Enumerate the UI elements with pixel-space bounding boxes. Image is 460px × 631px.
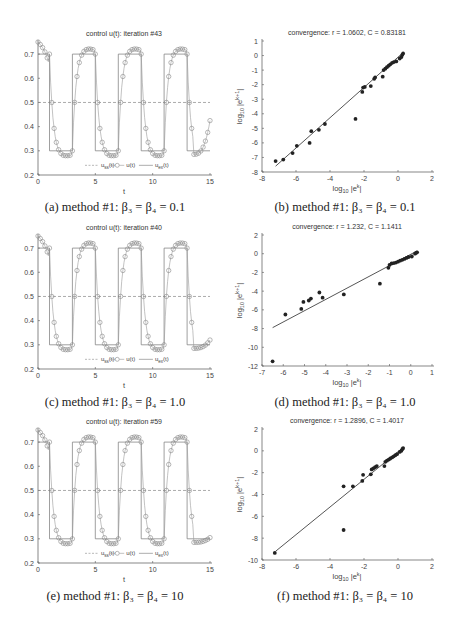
y-tick-label: 2 <box>254 232 258 239</box>
y-tick-label: -6 <box>252 139 258 146</box>
y-tick-label: 0.5 <box>24 293 34 300</box>
scatter-points <box>271 250 419 363</box>
chart-title: convergence: r = 1.2896, C = 1.4017 <box>290 417 404 425</box>
y-tick-label: -6 <box>252 513 258 520</box>
y-tick-label: -4 <box>252 491 258 498</box>
y-tick-label: -2 <box>252 81 258 88</box>
y-tick-label: 0.3 <box>24 341 34 348</box>
series-u <box>38 42 210 156</box>
chart-title: convergence: r = 1.0602, C = 0.83181 <box>288 29 406 37</box>
y-tick-label: -10 <box>248 344 258 351</box>
chart-b: -8-6-4-202-8-7-6-5-4-3-2-101convergence:… <box>230 0 460 195</box>
y-tick-label: -8 <box>252 325 258 332</box>
svg-text:uex(t): uex(t) <box>155 356 169 364</box>
y-tick-label: -5 <box>252 125 258 132</box>
x-tick-label: 10 <box>149 178 157 185</box>
x-tick-label: -2 <box>361 563 367 570</box>
x-tick-label: -2 <box>365 369 371 376</box>
x-tick-label: -1 <box>386 369 392 376</box>
axis-label: log10 |ek| <box>332 183 361 194</box>
x-tick-label: 0 <box>409 369 413 376</box>
y-tick-label: -8 <box>252 535 258 542</box>
u-markers <box>36 234 212 352</box>
x-tick-label: -8 <box>259 563 265 570</box>
x-tick-label: 0 <box>36 178 40 185</box>
svg-text:u(t): u(t) <box>126 550 135 556</box>
panel-c-control-plot: 0510150.20.30.40.50.60.7control u(t): it… <box>0 194 230 389</box>
x-tick-label: -6 <box>293 175 299 182</box>
x-tick-label: -4 <box>323 369 329 376</box>
svg-text:uss(t): uss(t) <box>101 162 115 170</box>
x-tick-label: -4 <box>327 175 333 182</box>
panel-b-convergence-plot: -8-6-4-202-8-7-6-5-4-3-2-101convergence:… <box>230 0 460 195</box>
legend: uss(t)u(t)uex(t) <box>85 162 169 170</box>
y-tick-label: 0.3 <box>24 147 34 154</box>
caption-e: (e) method #1: β₃ = β₄ = 10 <box>0 589 230 604</box>
y-tick-label: 0.4 <box>24 317 34 324</box>
chart-a: 0510150.20.30.40.50.60.7control u(t): it… <box>0 0 230 195</box>
panel-f-convergence-plot: -8-6-4-202-10-8-6-4-202convergence: r = … <box>230 388 460 583</box>
y-tick-label: -3 <box>252 96 258 103</box>
chart-title: control u(t): iteration #59 <box>86 418 162 426</box>
y-tick-label: -2 <box>252 469 258 476</box>
y-tick-label: 0 <box>254 447 258 454</box>
scatter-points <box>274 52 405 164</box>
y-tick-label: 0.7 <box>24 245 34 252</box>
y-tick-label: -4 <box>252 110 258 117</box>
y-tick-label: -10 <box>248 557 258 564</box>
svg-text:log10 |ek+1|: log10 |ek+1| <box>234 89 245 124</box>
panel-e-control-plot: 0510150.20.30.40.50.60.7control u(t): it… <box>0 388 230 583</box>
x-tick-label: 2 <box>430 563 434 570</box>
scatter-points <box>273 446 405 555</box>
x-tick-label: 5 <box>93 372 97 379</box>
panel-d-convergence-plot: -7-6-5-4-3-2-101-12-10-8-6-4-202converge… <box>230 194 460 389</box>
y-tick-label: -2 <box>252 269 258 276</box>
y-tick-label: -1 <box>252 67 258 74</box>
svg-text:uss(t): uss(t) <box>101 550 115 558</box>
svg-text:uss(t): uss(t) <box>101 356 115 364</box>
x-tick-label: 0 <box>36 372 40 379</box>
x-tick-label: 10 <box>149 566 157 573</box>
x-tick-label: -2 <box>361 175 367 182</box>
x-tick-label: 15 <box>206 566 214 573</box>
y-tick-label: 0.6 <box>24 463 34 470</box>
panel-a-control-plot: 0510150.20.30.40.50.60.7control u(t): it… <box>0 0 230 195</box>
series-u <box>38 236 210 350</box>
svg-text:log10 |ek+1|: log10 |ek+1| <box>234 477 245 512</box>
chart-title: control u(t): iteration #43 <box>86 30 162 38</box>
y-tick-label: 0.4 <box>24 511 34 518</box>
axis-label: log10 |ek| <box>332 377 361 388</box>
caption-f: (f) method #1: β₃ = β₄ = 10 <box>230 589 460 604</box>
y-tick-label: -6 <box>252 306 258 313</box>
svg-text:uex(t): uex(t) <box>155 550 169 558</box>
x-tick-label: -8 <box>259 175 265 182</box>
y-tick-label: 0.6 <box>24 75 34 82</box>
u-markers <box>36 428 212 546</box>
u-markers <box>36 40 212 158</box>
x-tick-label: 15 <box>206 372 214 379</box>
y-tick-label: 1 <box>254 38 258 45</box>
axis-label: log10 |ek+1| <box>234 283 245 318</box>
chart-title: control u(t): iteration #40 <box>86 224 162 232</box>
x-tick-label: 10 <box>149 372 157 379</box>
series-u <box>38 430 210 544</box>
y-tick-label: -8 <box>252 169 258 176</box>
y-tick-label: 0 <box>254 52 258 59</box>
x-tick-label: 5 <box>93 178 97 185</box>
x-tick-label: 15 <box>206 178 214 185</box>
x-axis-label: t <box>123 575 126 584</box>
axis-label: log10 |ek+1| <box>234 477 245 512</box>
legend: uss(t)u(t)uex(t) <box>85 356 169 364</box>
x-tick-label: 0 <box>396 563 400 570</box>
x-tick-label: -4 <box>327 563 333 570</box>
x-tick-label: -3 <box>344 369 350 376</box>
svg-text:uex(t): uex(t) <box>155 162 169 170</box>
svg-text:log10 |ek+1|: log10 |ek+1| <box>234 283 245 318</box>
x-tick-label: 2 <box>430 175 434 182</box>
chart-e: 0510150.20.30.40.50.60.7control u(t): it… <box>0 388 230 583</box>
y-tick-label: 2 <box>254 426 258 433</box>
x-tick-label: -6 <box>280 369 286 376</box>
y-tick-label: -7 <box>252 154 258 161</box>
svg-text:u(t): u(t) <box>126 356 135 362</box>
y-tick-label: 0.4 <box>24 123 34 130</box>
